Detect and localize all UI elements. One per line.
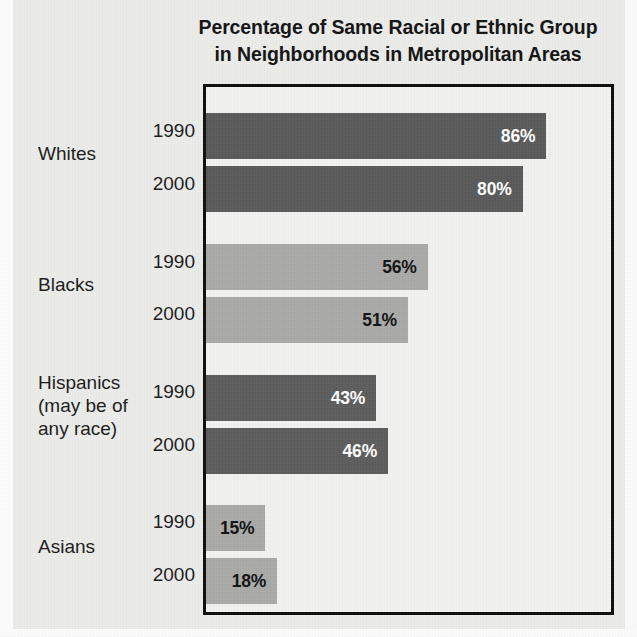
plot-area-frame: 86% 80% 56% 51% 43% 46% 15% 18% <box>203 84 614 615</box>
scan-edge-bottom <box>0 629 637 637</box>
bar-value-label: 46% <box>343 441 388 462</box>
chart-figure: Percentage of Same Racial or Ethnic Grou… <box>0 0 637 637</box>
bar-hispanics-1990: 43% <box>206 375 376 421</box>
year-label-whites-2000: 2000 <box>123 173 195 195</box>
bar-value-label: 15% <box>220 518 265 539</box>
bar-whites-2000: 80% <box>206 166 523 212</box>
scan-edge-left <box>0 0 13 637</box>
bar-value-label: 80% <box>477 179 522 200</box>
bar-blacks-1990: 56% <box>206 244 428 290</box>
chart-title-line-2: in Neighborhoods in Metropolitan Areas <box>172 41 624 68</box>
year-label-whites-1990: 1990 <box>123 120 195 142</box>
group-label-line: Whites <box>38 142 148 165</box>
bar-whites-1990: 86% <box>206 113 546 159</box>
year-label-blacks-2000: 2000 <box>123 303 195 325</box>
scan-edge-right <box>625 0 637 637</box>
group-label-whites: Whites <box>38 142 148 165</box>
chart-title: Percentage of Same Racial or Ethnic Grou… <box>172 14 624 68</box>
year-label-hispanics-1990: 1990 <box>123 381 195 403</box>
bar-value-label: 18% <box>232 571 277 592</box>
bar-blacks-2000: 51% <box>206 297 408 343</box>
group-label-asians: Asians <box>38 535 148 558</box>
group-label-line: Blacks <box>38 273 148 296</box>
year-label-asians-1990: 1990 <box>123 511 195 533</box>
bar-value-label: 43% <box>331 388 376 409</box>
year-label-blacks-1990: 1990 <box>123 251 195 273</box>
chart-title-line-1: Percentage of Same Racial or Ethnic Grou… <box>172 14 624 41</box>
year-label-asians-2000: 2000 <box>123 564 195 586</box>
plot-area: 86% 80% 56% 51% 43% 46% 15% 18% <box>206 87 611 612</box>
bar-value-label: 56% <box>382 257 427 278</box>
bar-asians-1990: 15% <box>206 505 265 551</box>
group-label-blacks: Blacks <box>38 273 148 296</box>
bar-value-label: 86% <box>501 126 546 147</box>
bar-hispanics-2000: 46% <box>206 428 388 474</box>
group-label-line: Asians <box>38 535 148 558</box>
year-label-hispanics-2000: 2000 <box>123 434 195 456</box>
bar-asians-2000: 18% <box>206 558 277 604</box>
bar-value-label: 51% <box>362 310 407 331</box>
